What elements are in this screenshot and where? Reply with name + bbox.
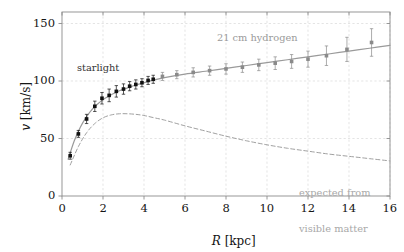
y-axis-unit: [km/s]	[19, 82, 33, 120]
annotation-starlight: starlight	[77, 63, 119, 73]
x-axis-title: R [kpc]	[197, 223, 256, 252]
y-tick-label-0: 0	[48, 190, 55, 202]
y-axis-unit-space	[19, 120, 33, 124]
x-tick-label-16: 16	[383, 203, 398, 215]
x-tick-label-2: 2	[100, 203, 107, 215]
x-tick-label-0: 0	[59, 203, 66, 215]
annotation-expected-line1: expected from	[299, 187, 371, 199]
x-axis-unit: [kpc]	[225, 234, 256, 248]
y-tick-label-150: 150	[33, 18, 55, 30]
x-tick-label-4: 4	[141, 203, 148, 215]
x-tick-label-8: 8	[223, 203, 230, 215]
x-axis-variable: R	[212, 234, 221, 248]
x-tick-label-10: 10	[260, 203, 275, 215]
annotation-expected-line2: visible matter	[299, 223, 371, 235]
annotation-21cm-hydrogen: 21 cm hydrogen	[217, 33, 298, 43]
expected-curve	[70, 114, 390, 165]
y-axis-title: v [km/s]	[8, 78, 44, 150]
starlight-data-series	[68, 75, 155, 159]
x-tick-label-6: 6	[182, 203, 189, 215]
annotation-expected-visible-matter: expected from visible matter	[299, 163, 371, 252]
y-axis-variable: v	[19, 124, 33, 131]
